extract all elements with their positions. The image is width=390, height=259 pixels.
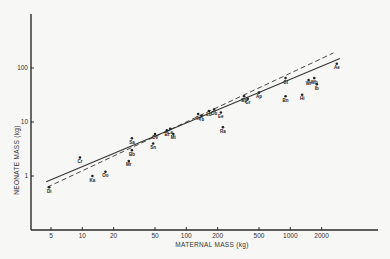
y-axis-title: NEONATE MASS (kg)	[13, 125, 21, 194]
x-tick-label: 200	[212, 232, 223, 239]
dashed-regression-line	[47, 53, 333, 187]
data-point-label: Sn	[150, 145, 156, 150]
x-tick-label: 1000	[283, 232, 298, 239]
regression-lines	[46, 53, 340, 187]
data-point-label: Ap	[256, 94, 262, 99]
data-point-label: Ra	[220, 129, 226, 134]
data-point-label: Di	[47, 189, 52, 194]
data-point-label: Ob	[211, 111, 218, 116]
data-point-label: Ka	[89, 178, 95, 183]
solid-regression-line	[46, 58, 340, 181]
x-tick-label: 10	[79, 232, 87, 239]
y-tick-label: 1	[24, 172, 28, 179]
x-tick-label: 500	[254, 232, 265, 239]
x-tick-label: 5	[49, 232, 53, 239]
data-point-label: Bn	[283, 98, 289, 103]
x-tick-label: 100	[181, 232, 192, 239]
data-points: DiCrKaOoMrSaBbSnOvBtCeMiTsTbLbObEeRaBpGr…	[47, 62, 340, 193]
data-point-label: Mi	[171, 135, 176, 140]
data-point-label: Ae	[334, 65, 340, 70]
x-tick-label: 20	[110, 232, 118, 239]
data-point-label: Gi	[283, 80, 288, 85]
x-tick-label: 50	[151, 232, 159, 239]
y-tick-label: 100	[17, 64, 28, 71]
data-point-label: Oo	[102, 173, 109, 178]
data-point-label: Hi	[300, 96, 305, 101]
x-axis-title: MATERNAL MASS (kg)	[175, 241, 248, 249]
x-ticks: 510205010020050010002000	[49, 227, 329, 239]
scatter-chart: 110100 510205010020050010002000 NEONATE …	[0, 0, 390, 259]
data-point-label: Bb	[129, 152, 135, 157]
y-tick-label: 10	[21, 118, 29, 125]
data-point-label: Ib	[315, 86, 319, 91]
data-point-label: Cr	[77, 159, 82, 164]
data-point-label: Ov	[152, 135, 159, 140]
data-point-label: Ee	[218, 114, 224, 119]
data-point-label: Gr	[245, 100, 251, 105]
data-point-label: Tb	[199, 117, 205, 122]
data-point-label: Sa	[129, 140, 135, 145]
x-tick-label: 2000	[314, 232, 329, 239]
data-point-label: Mr	[126, 162, 132, 167]
